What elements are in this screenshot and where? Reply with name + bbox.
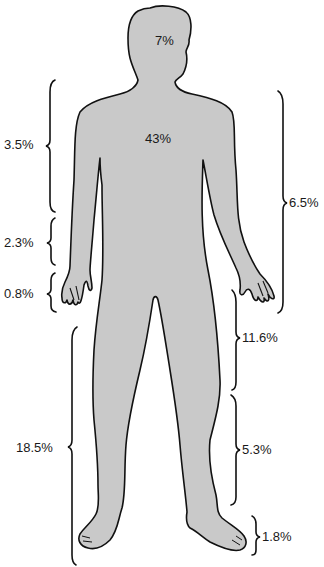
- bracket-right-lower-leg: [231, 395, 240, 505]
- bracket-right-arm: [278, 91, 287, 313]
- bracket-right-thigh: [232, 290, 240, 390]
- trunk-percentage-label: 43%: [145, 132, 171, 145]
- bracket-left-upper-arm: [46, 80, 55, 212]
- arm-percentage-label: 6.5%: [289, 196, 319, 209]
- forearm-percentage-label: 2.3%: [4, 236, 34, 249]
- bracket-left-hand: [47, 273, 56, 312]
- lower-leg-percentage-label: 5.3%: [242, 443, 272, 456]
- bracket-left-leg: [68, 327, 77, 565]
- head-percentage-label: 7%: [155, 34, 174, 47]
- body-silhouette: [62, 6, 275, 551]
- bracket-left-forearm: [47, 218, 55, 265]
- hand-percentage-label: 0.8%: [4, 287, 34, 300]
- leg-percentage-label: 18.5%: [16, 441, 53, 454]
- body-silhouette-graphic: [0, 0, 324, 567]
- thigh-percentage-label: 11.6%: [242, 331, 278, 344]
- foot-percentage-label: 1.8%: [262, 530, 292, 543]
- bracket-right-foot: [252, 516, 260, 555]
- body-surface-area-diagram: 7% 43% 3.5% 2.3% 0.8% 18.5% 6.5% 11.6% 5…: [0, 0, 324, 567]
- upper-arm-percentage-label: 3.5%: [4, 138, 34, 151]
